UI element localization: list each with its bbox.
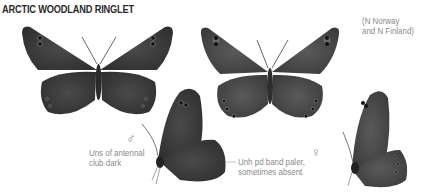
band-annotation: Unh pd band paler, sometimes absent — [238, 157, 305, 177]
female-underside-figure — [343, 91, 407, 187]
female-symbol: ♀ — [311, 145, 321, 160]
annotation-line: club dark — [89, 158, 144, 168]
butterfly-illustrations — [0, 0, 423, 192]
annotation-line: Uns of antennal — [89, 148, 144, 158]
antenna-annotation: Uns of antennal club dark — [89, 148, 144, 168]
annotation-line: Unh pd band paler, — [238, 157, 305, 167]
annotation-line: sometimes absent — [238, 167, 305, 177]
male-symbol: ♂ — [126, 131, 136, 146]
male-underside-figure — [142, 89, 226, 184]
female-upperside-figure — [201, 28, 339, 118]
male-upperside-figure — [22, 27, 173, 115]
